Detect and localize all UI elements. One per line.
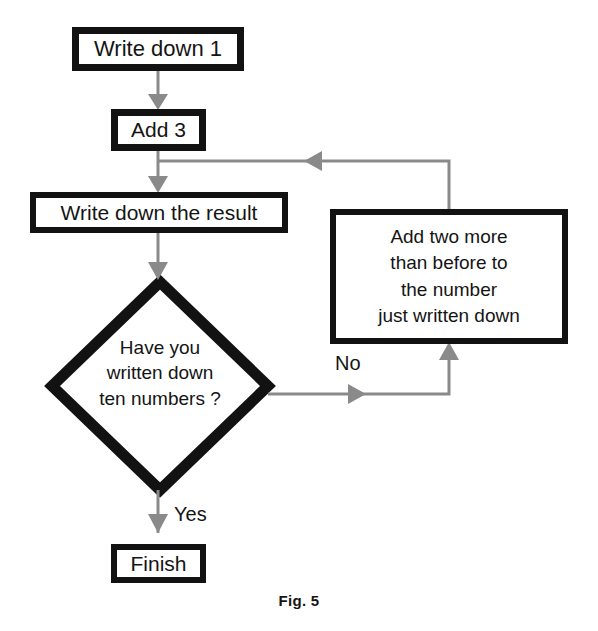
flowchart-figure: Write down 1 Add 3 Write down the result… bbox=[0, 0, 598, 631]
figure-caption: Fig. 5 bbox=[0, 592, 598, 609]
edge-label-yes: Yes bbox=[174, 503, 207, 526]
arrowhead-add3-to-writeresult bbox=[148, 176, 168, 193]
node-add-two-more-label: Add two more than before to the number j… bbox=[336, 224, 562, 329]
arrowhead-yes-to-finish bbox=[148, 514, 168, 533]
arrowhead-writeresult-to-decision bbox=[148, 262, 168, 280]
node-finish[interactable]: Finish bbox=[111, 544, 206, 583]
arrowhead-loop-return-left bbox=[304, 151, 322, 171]
node-add-3[interactable]: Add 3 bbox=[111, 109, 206, 151]
node-write-down-1-label: Write down 1 bbox=[79, 36, 237, 63]
node-finish-label: Finish bbox=[117, 551, 200, 577]
arrowhead-no-branch-right bbox=[348, 384, 366, 404]
node-add-two-more[interactable]: Add two more than before to the number j… bbox=[330, 209, 568, 344]
node-write-down-the-result[interactable]: Write down the result bbox=[30, 192, 288, 233]
edge-label-no: No bbox=[335, 352, 361, 375]
node-write-down-1[interactable]: Write down 1 bbox=[72, 27, 244, 71]
node-add-3-label: Add 3 bbox=[118, 117, 199, 143]
arrowhead-no-branch-into-box bbox=[439, 342, 459, 360]
decision-node-label: Have you written down ten numbers ? bbox=[60, 335, 260, 411]
node-write-down-the-result-label: Write down the result bbox=[36, 200, 282, 226]
arrowhead-start-to-add3 bbox=[148, 94, 168, 110]
